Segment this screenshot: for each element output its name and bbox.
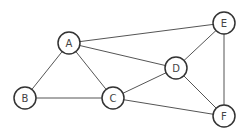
node-b: B (14, 87, 36, 109)
graph-diagram: ABCDEF (0, 0, 251, 136)
edge-a-d (69, 43, 176, 68)
edge-c-f (113, 98, 224, 116)
node-label: B (22, 93, 29, 104)
node-d: D (165, 57, 187, 79)
node-e: E (213, 12, 235, 34)
node-label: F (221, 111, 227, 122)
node-label: E (221, 18, 227, 29)
node-f: F (213, 105, 235, 127)
edges-layer (25, 23, 224, 116)
node-c: C (102, 87, 124, 109)
node-label: A (66, 38, 73, 49)
node-label: C (110, 93, 117, 104)
node-a: A (58, 32, 80, 54)
node-label: D (172, 63, 180, 74)
edge-a-e (69, 23, 224, 43)
nodes-layer: ABCDEF (14, 12, 235, 127)
